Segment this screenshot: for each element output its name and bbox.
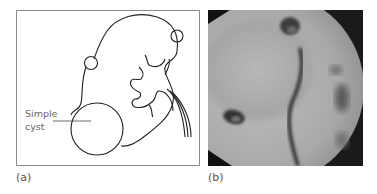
panel-b-label: (b) <box>208 171 224 184</box>
simple-cyst-label-cont: cyst <box>25 121 45 133</box>
panel-b-radiograph <box>208 10 363 166</box>
radiograph-image <box>208 10 363 166</box>
kidney-cyst-drawing <box>17 11 201 167</box>
simple-cyst-label: Simple <box>25 108 57 120</box>
panel-a-diagram: Simple cyst <box>16 10 200 166</box>
panel-a-label: (a) <box>16 171 31 184</box>
